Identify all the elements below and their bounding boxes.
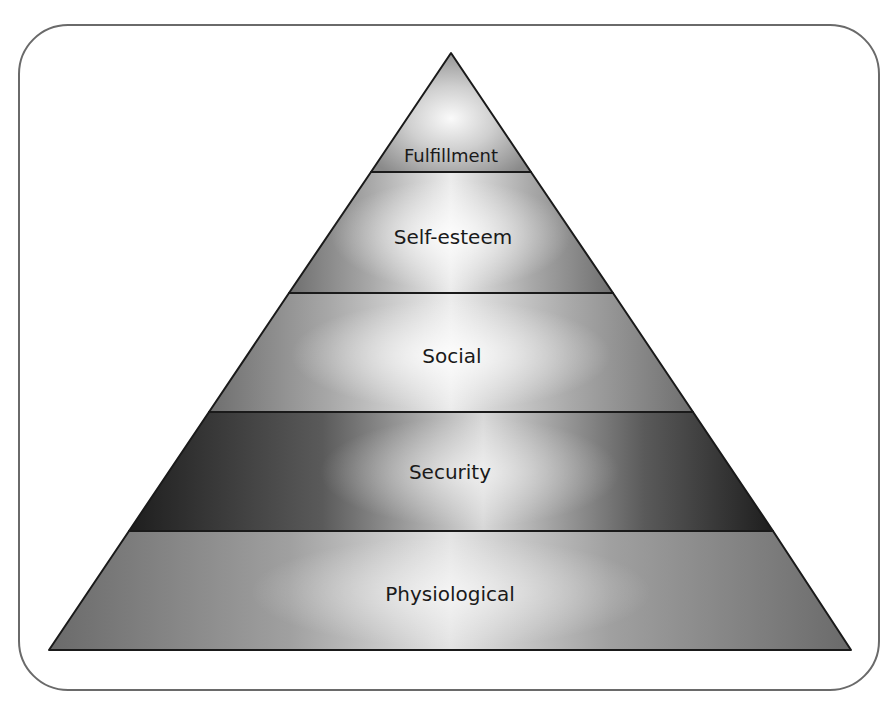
level-label-self-esteem: Self-esteem <box>394 225 512 249</box>
pyramid-level-physiological: Physiological <box>49 531 851 650</box>
level-label-social: Social <box>422 344 481 368</box>
level-label-security: Security <box>409 460 491 484</box>
pyramid-level-security: Security <box>129 412 773 531</box>
level-label-physiological: Physiological <box>385 582 515 606</box>
pyramid-level-self-esteem: Self-esteem <box>289 172 613 293</box>
pyramid-level-social: Social <box>209 293 693 412</box>
level-label-fulfillment: Fulfillment <box>404 145 498 166</box>
pyramid-diagram: Fulfillment Self-esteem Social Security … <box>0 0 896 707</box>
pyramid-level-fulfillment: Fulfillment <box>371 53 531 172</box>
